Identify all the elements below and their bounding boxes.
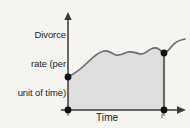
rate-at-t-dot — [161, 50, 168, 57]
divorce-rate-figure: Divorce rate (per unit of time) Time t — [0, 0, 190, 128]
y-axis-label: Divorce rate (per unit of time) — [0, 11, 66, 117]
t-tick-label: t — [161, 111, 163, 120]
area-under-curve — [68, 48, 164, 110]
y-axis-label-line-3: unit of time) — [0, 88, 66, 98]
y-axis-label-line-2: rate (per — [0, 59, 66, 69]
x-axis-label: Time — [96, 112, 118, 123]
y-axis-label-line-1: Divorce — [0, 30, 66, 40]
arrow-right-icon — [177, 106, 186, 113]
